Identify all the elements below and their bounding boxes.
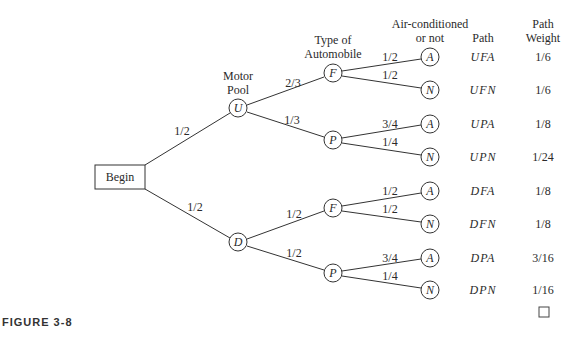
weight-UFN: 1/6 [535, 83, 550, 97]
begin-label: Begin [106, 170, 135, 184]
node-UF-label: F [328, 66, 337, 80]
node-DF-label: F [328, 201, 337, 215]
prob-DF-A: 1/2 [382, 184, 397, 198]
probability-tree-diagram: Motor Pool Type of Automobile Air-condit… [0, 0, 571, 337]
header-path: Path [472, 31, 493, 45]
prob-UF-A: 1/2 [382, 50, 397, 64]
prob-DP-A: 3/4 [382, 251, 397, 265]
path-DFA: DFA [470, 184, 496, 198]
path-DFN: DFN [469, 217, 497, 231]
path-DPN: DPN [469, 283, 497, 297]
weight-DPA: 3/16 [532, 251, 553, 265]
prob-U-P: 1/3 [284, 113, 299, 127]
prob-UF-N: 1/2 [382, 68, 397, 82]
prob-D-P: 1/2 [286, 246, 301, 260]
leaf-UPN-label: N [425, 150, 435, 164]
tree-edges [145, 59, 421, 288]
figure-caption: FIGURE 3-8 [2, 316, 73, 328]
header-type-line1: Type of [315, 33, 352, 47]
header-ac-line2: or not [416, 31, 445, 45]
leaf-UFA-label: A [425, 50, 434, 64]
prob-begin-D: 1/2 [187, 200, 202, 214]
weight-UPN: 1/24 [532, 150, 553, 164]
weight-DPN: 1/16 [532, 283, 553, 297]
prob-UP-N: 1/4 [382, 135, 397, 149]
path-UPN: UPN [470, 150, 497, 164]
prob-UP-A: 3/4 [382, 117, 397, 131]
weight-DFA: 1/8 [535, 184, 550, 198]
leaf-DPA-label: A [425, 251, 434, 265]
leaf-DFN-label: N [425, 217, 435, 231]
node-UP-label: P [328, 133, 337, 147]
path-UFA: UFA [471, 50, 496, 64]
header-motor-pool-line1: Motor [223, 69, 253, 83]
header-type-line2: Automobile [304, 47, 361, 61]
weight-UPA: 1/8 [535, 117, 550, 131]
edge-begin-U [145, 113, 230, 165]
header-motor-pool-line2: Pool [227, 83, 250, 97]
node-D-label: D [233, 235, 243, 249]
header-ac-line1: Air-conditioned [392, 17, 468, 31]
node-DP-label: P [328, 266, 337, 280]
weight-UFA: 1/6 [535, 50, 550, 64]
prob-DF-N: 1/2 [382, 202, 397, 216]
header-weight-line2: Weight [526, 31, 561, 45]
prob-DP-N: 1/4 [382, 269, 397, 283]
weight-DFN: 1/8 [535, 217, 550, 231]
path-DPA: DPA [470, 251, 496, 265]
leaf-DFA-label: A [425, 184, 434, 198]
path-UFN: UFN [470, 83, 497, 97]
leaf-UFN-label: N [425, 83, 435, 97]
header-weight-line1: Path [532, 17, 553, 31]
end-marker-icon [539, 307, 549, 317]
leaf-UPA-label: A [425, 117, 434, 131]
path-UPA: UPA [471, 117, 496, 131]
node-U-label: U [234, 101, 244, 115]
leaf-DPN-label: N [425, 283, 435, 297]
prob-U-F: 2/3 [285, 76, 300, 90]
prob-begin-U: 1/2 [174, 124, 189, 138]
prob-D-F: 1/2 [286, 207, 301, 221]
